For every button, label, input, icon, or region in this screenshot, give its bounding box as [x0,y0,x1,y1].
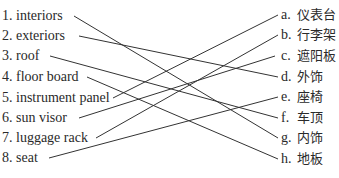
match-line-2-d [79,36,278,77]
match-lines [0,0,339,178]
match-line-5-a [113,15,278,98]
match-line-8-e [49,97,278,158]
match-line-1-g [74,16,278,138]
match-line-7-b [96,35,278,138]
match-line-3-f [50,56,278,118]
